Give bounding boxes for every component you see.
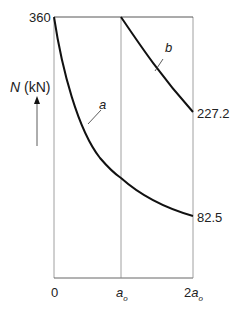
curve-a-end-value: 82.5: [197, 210, 222, 225]
x-tick-2a0: 2ao: [184, 285, 203, 303]
curve-b: [121, 17, 193, 112]
y-axis-unit: (kN): [20, 79, 50, 95]
x-tick-0: 0: [51, 285, 58, 300]
y-arrow-icon: [34, 96, 40, 104]
curve-b-end-value: 227.2: [197, 106, 230, 121]
curve-b-label: b: [165, 40, 172, 55]
chart-canvas: [0, 0, 239, 316]
x-tick-a0: ao: [116, 285, 128, 303]
curve-a-label: a: [99, 97, 106, 112]
y-axis-label: N (kN): [10, 79, 50, 95]
y-top-label: 360: [29, 10, 51, 25]
y-axis-symbol: N: [10, 79, 20, 95]
leader-a: [88, 110, 101, 124]
